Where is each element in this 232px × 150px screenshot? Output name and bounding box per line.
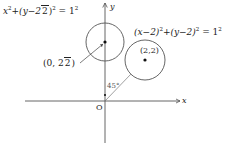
origin-label: O [96,104,103,112]
y-axis-label: y [110,3,115,11]
sqrt-sign: 2 [41,5,49,16]
circle-2-center-label: (2,2) [140,47,159,55]
circle-2-equation: (x−2)2+(y−2)2 = 12 [134,27,222,37]
circle-1-equation: x2+(y−22)2 = 12 [3,6,78,16]
circle-1-center-dot [103,40,106,43]
x-axis-label: x [182,97,187,105]
coordinate-diagram: x2+(y−22)2 = 12 (0, 22) (x−2)2+(y−2)2 = … [0,0,232,150]
circle-1-center-label: (0, 22) [43,59,75,68]
circle-2-center-dot [143,58,146,61]
angle-label: 45° [107,83,119,90]
angle-marker [104,94,106,96]
diagram-canvas [0,0,232,150]
